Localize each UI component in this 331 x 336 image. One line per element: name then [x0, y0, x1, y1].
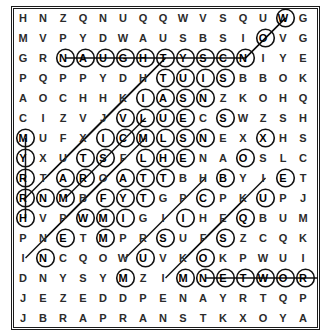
grid-cell-selected[interactable]: E	[173, 108, 193, 128]
grid-cell[interactable]: Y	[53, 268, 73, 288]
grid-cell[interactable]: Q	[73, 248, 93, 268]
grid-cell[interactable]: O	[253, 88, 273, 108]
grid-cell[interactable]: I	[33, 108, 53, 128]
grid-cell[interactable]: P	[93, 308, 113, 328]
grid-cell-selected[interactable]: C	[113, 128, 133, 148]
grid-cell[interactable]: Y	[273, 48, 293, 68]
grid-cell[interactable]: Y	[93, 68, 113, 88]
grid-cell-selected[interactable]: U	[133, 248, 153, 268]
grid-cell[interactable]: Q	[153, 8, 173, 28]
grid-cell-selected[interactable]: F	[93, 188, 113, 208]
grid-cell[interactable]: O	[33, 88, 53, 108]
grid-cell-selected[interactable]: I	[93, 128, 113, 148]
grid-cell[interactable]: C	[53, 248, 73, 268]
grid-cell-selected[interactable]: T	[153, 48, 173, 68]
grid-cell[interactable]: E	[153, 288, 173, 308]
grid-cell[interactable]: P	[53, 28, 73, 48]
grid-cell-selected[interactable]: O	[273, 268, 293, 288]
grid-cell[interactable]: J	[13, 288, 33, 308]
grid-cell[interactable]: E	[213, 208, 233, 228]
grid-cell[interactable]: U	[33, 128, 53, 148]
grid-cell[interactable]: Z	[133, 268, 153, 288]
grid-cell-selected[interactable]: X	[253, 128, 273, 148]
grid-cell[interactable]: N	[33, 228, 53, 248]
grid-cell[interactable]: H	[73, 88, 93, 108]
grid-cell[interactable]: Y	[233, 168, 253, 188]
grid-cell[interactable]: S	[173, 28, 193, 48]
grid-cell[interactable]: B	[253, 68, 273, 88]
grid-cell[interactable]: U	[273, 248, 293, 268]
grid-cell[interactable]: A	[133, 308, 153, 328]
grid-cell[interactable]: P	[293, 288, 313, 308]
grid-cell-selected[interactable]: R	[13, 168, 33, 188]
grid-cell[interactable]: R	[53, 308, 73, 328]
grid-cell-selected[interactable]: N	[53, 48, 73, 68]
grid-cell[interactable]: I	[153, 268, 173, 288]
grid-cell[interactable]: E	[73, 288, 93, 308]
grid-cell[interactable]: Y	[93, 268, 113, 288]
grid-cell[interactable]: V	[73, 108, 93, 128]
grid-cell[interactable]: Q	[33, 68, 53, 88]
grid-cell[interactable]: Z	[53, 288, 73, 308]
grid-cell-selected[interactable]: N	[193, 268, 213, 288]
grid-cell-selected[interactable]: C	[213, 48, 233, 68]
grid-cell-selected[interactable]: L	[153, 128, 173, 148]
grid-cell[interactable]: V	[33, 208, 53, 228]
grid-cell[interactable]: E	[213, 128, 233, 148]
grid-cell[interactable]: B	[33, 308, 53, 328]
grid-cell-selected[interactable]: I	[193, 68, 213, 88]
grid-cell[interactable]: P	[273, 188, 293, 208]
grid-cell[interactable]: P	[233, 248, 253, 268]
grid-cell[interactable]: G	[293, 28, 313, 48]
grid-cell-selected[interactable]: T	[233, 268, 253, 288]
grid-cell[interactable]: P	[53, 68, 73, 88]
grid-cell-selected[interactable]: R	[293, 268, 313, 288]
grid-cell[interactable]: N	[33, 8, 53, 28]
grid-cell[interactable]: A	[73, 308, 93, 328]
grid-cell[interactable]: K	[293, 68, 313, 88]
grid-cell[interactable]: M	[293, 208, 313, 228]
grid-cell-selected[interactable]: S	[193, 48, 213, 68]
grid-cell[interactable]: O	[273, 68, 293, 88]
grid-cell[interactable]: H	[193, 168, 213, 188]
grid-cell[interactable]: S	[273, 108, 293, 128]
grid-cell[interactable]: B	[233, 68, 253, 88]
grid-cell[interactable]: S	[253, 148, 273, 168]
grid-cell[interactable]: I	[293, 248, 313, 268]
grid-cell-selected[interactable]: H	[133, 48, 153, 68]
grid-cell-selected[interactable]: H	[13, 208, 33, 228]
grid-cell[interactable]: G	[133, 208, 153, 228]
grid-cell[interactable]: B	[173, 168, 193, 188]
grid-cell[interactable]: I	[153, 208, 173, 228]
grid-cell-selected[interactable]: I	[133, 88, 153, 108]
grid-cell[interactable]: T	[253, 288, 273, 308]
grid-cell-selected[interactable]: I	[113, 208, 133, 228]
grid-cell[interactable]: C	[253, 228, 273, 248]
grid-cell-selected[interactable]: S	[93, 148, 113, 168]
grid-cell[interactable]: N	[193, 148, 213, 168]
grid-cell-selected[interactable]: A	[113, 168, 133, 188]
grid-cell[interactable]: S	[293, 128, 313, 148]
grid-cell[interactable]: P	[73, 68, 93, 88]
grid-cell-selected[interactable]: Y	[13, 148, 33, 168]
grid-cell[interactable]: G	[153, 188, 173, 208]
grid-cell-selected[interactable]: N	[233, 48, 253, 68]
grid-cell[interactable]: H	[273, 88, 293, 108]
grid-cell[interactable]: Z	[53, 108, 73, 128]
grid-cell-selected[interactable]: M	[53, 188, 73, 208]
grid-cell[interactable]: K	[173, 248, 193, 268]
grid-cell-selected[interactable]: B	[213, 168, 233, 188]
grid-cell[interactable]: S	[173, 308, 193, 328]
grid-cell[interactable]: Z	[253, 108, 273, 128]
grid-cell[interactable]: I	[13, 248, 33, 268]
grid-cell[interactable]: H	[193, 208, 213, 228]
grid-cell[interactable]: H	[93, 88, 113, 108]
grid-cell[interactable]: Z	[213, 88, 233, 108]
grid-cell-selected[interactable]: N	[33, 188, 53, 208]
grid-cell[interactable]: T	[73, 228, 93, 248]
grid-cell[interactable]: P	[213, 188, 233, 208]
grid-cell[interactable]: A	[213, 148, 233, 168]
grid-cell[interactable]: W	[113, 248, 133, 268]
grid-cell-selected[interactable]: M	[113, 268, 133, 288]
grid-cell[interactable]: Q	[73, 8, 93, 28]
